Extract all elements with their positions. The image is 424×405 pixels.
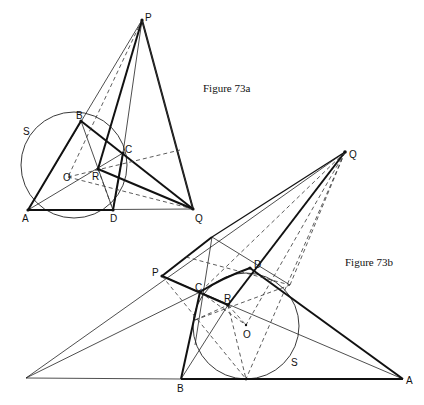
figure-73a: P B C R O A D Q S Figure 73a xyxy=(21,12,250,224)
label-p-73a: P xyxy=(145,12,152,23)
label-a-73a: A xyxy=(22,213,29,224)
label-a-73b: A xyxy=(406,375,413,386)
label-q-73a: Q xyxy=(195,213,203,224)
figure-73b: Q P C D R O B A S Figure 73b xyxy=(26,149,413,394)
label-r-73b: R xyxy=(224,293,231,304)
label-c-73b: C xyxy=(195,282,202,293)
label-c-73a: C xyxy=(125,144,132,155)
label-b-73b: B xyxy=(177,383,184,394)
label-q-73b: Q xyxy=(349,149,357,160)
label-o-73a: O xyxy=(63,172,71,183)
label-s-73a: S xyxy=(23,126,30,137)
caption-73a: Figure 73a xyxy=(203,82,250,94)
caption-73b: Figure 73b xyxy=(345,256,393,268)
label-r-73a: R xyxy=(92,171,99,182)
label-o-73b: O xyxy=(243,329,251,340)
label-b-73a: B xyxy=(76,110,83,121)
label-d-73a: D xyxy=(110,213,117,224)
label-p-73b: P xyxy=(152,267,159,278)
label-s-73b: S xyxy=(291,357,298,368)
label-d-73b: D xyxy=(254,259,261,270)
geometry-diagram: P B C R O A D Q S Figure 73a xyxy=(0,0,424,405)
